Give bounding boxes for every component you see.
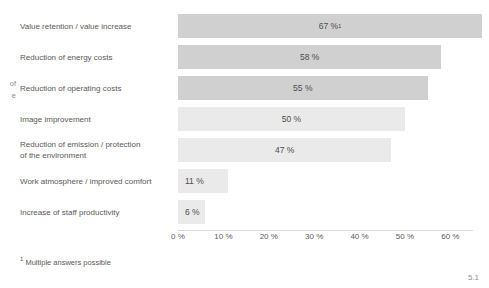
bar-row: Reduction of energy costs58 % <box>18 43 473 71</box>
x-tick-label: 20 % <box>260 232 278 241</box>
bar-row-label-text: Increase of staff productivity <box>20 207 119 218</box>
x-axis-ticks: 0 %10 %20 %30 %40 %50 %60 % <box>18 232 473 246</box>
bar-value-label: 11 % <box>178 169 235 193</box>
bar-row-label: Value retention / value increase <box>20 12 172 40</box>
bar-row: Image improvement50 % <box>18 105 473 133</box>
bar-row-label: Reduction of energy costs <box>20 43 172 71</box>
bar-value-label: 58 % <box>178 45 441 69</box>
bar-row: Reduction of emission / protectionof the… <box>18 136 473 164</box>
bar-value-label: 55 % <box>178 76 428 100</box>
bar-row-label-text: Work atmosphere / improved comfort <box>20 176 151 187</box>
bar-row-label: Work atmosphere / improved comfort <box>20 167 172 195</box>
footnote-text: Multiple answers possible <box>23 258 111 267</box>
bar-row-label-text: Reduction of operating costs <box>20 83 121 94</box>
bar-row-label-text: Value retention / value increase <box>20 21 131 32</box>
bar-value-label: 47 % <box>178 138 391 162</box>
bar-row: Increase of staff productivity6 % <box>18 198 473 226</box>
bar-value-label: 6 % <box>178 200 212 224</box>
footnote: 1 Multiple answers possible <box>20 256 111 267</box>
x-tick-label: 50 % <box>396 232 414 241</box>
chart-container: of e Value retention / value increase67 … <box>0 0 489 288</box>
x-tick-label: 30 % <box>305 232 323 241</box>
x-tick-label: 40 % <box>350 232 368 241</box>
x-tick-label: 0 % <box>171 232 185 241</box>
bar-value-label: 67 %1 <box>178 14 482 38</box>
bar-row-label: Reduction of emission / protectionof the… <box>20 136 172 164</box>
plot-area: Value retention / value increase67 %1Red… <box>18 12 473 244</box>
x-axis-baseline <box>178 230 473 231</box>
left-margin-line-2: e <box>0 90 16 102</box>
bar-row: Reduction of operating costs55 % <box>18 74 473 102</box>
bar-row-label: Image improvement <box>20 105 172 133</box>
page-number: 5.1 <box>468 273 479 282</box>
bar-value-superscript: 1 <box>338 23 341 29</box>
bar-row-label: Increase of staff productivity <box>20 198 172 226</box>
bar-row-label-text: Image improvement <box>20 114 91 125</box>
bar-row-label: Reduction of operating costs <box>20 74 172 102</box>
bar-row-label-text: Reduction of energy costs <box>20 52 113 63</box>
bar-row: Work atmosphere / improved comfort11 % <box>18 167 473 195</box>
x-tick-label: 10 % <box>214 232 232 241</box>
left-margin-text: of e <box>0 78 16 102</box>
left-margin-line-1: of <box>0 78 16 90</box>
bar-value-label: 50 % <box>178 107 405 131</box>
x-tick-label: 60 % <box>441 232 459 241</box>
bar-row-label-text: Reduction of emission / protectionof the… <box>20 139 141 161</box>
bar-row: Value retention / value increase67 %1 <box>18 12 473 40</box>
